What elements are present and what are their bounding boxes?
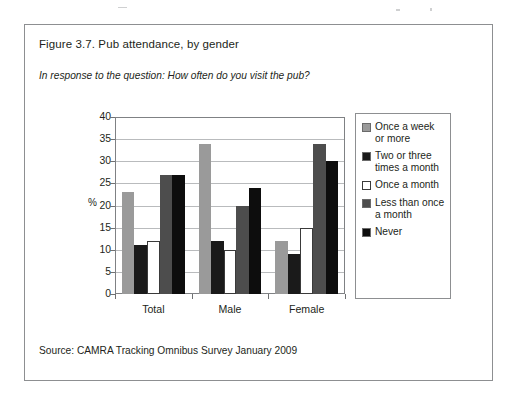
y-axis-tick-label: 15 xyxy=(89,223,111,233)
bar xyxy=(199,144,212,294)
bar xyxy=(288,254,301,294)
x-axis-tick-mark xyxy=(268,294,269,299)
y-axis-tick-mark xyxy=(110,206,115,207)
bar xyxy=(236,206,249,295)
bar xyxy=(147,241,160,294)
y-axis-tick-labels: 0510152025303540 xyxy=(85,117,111,294)
legend-label: Once a month xyxy=(375,179,439,191)
figure-source: Source: CAMRA Tracking Omnibus Survey Ja… xyxy=(39,345,297,356)
bar xyxy=(211,241,224,294)
chart-area: % 0510152025303540 Once a week or moreTw… xyxy=(25,99,494,339)
bar xyxy=(326,161,339,294)
legend-swatch-icon xyxy=(362,152,371,161)
chart-legend: Once a week or moreTwo or three times a … xyxy=(355,113,451,299)
figure-title: Figure 3.7. Pub attendance, by gender xyxy=(39,38,239,50)
legend-label: Less than once a month xyxy=(375,197,445,220)
legend-swatch-icon xyxy=(362,123,371,132)
y-axis-tick-mark xyxy=(110,139,115,140)
bar xyxy=(249,188,262,294)
y-axis-tick-mark xyxy=(110,272,115,273)
legend-swatch-icon xyxy=(362,181,371,190)
y-axis-tick-label: 40 xyxy=(89,112,111,122)
legend-swatch-icon xyxy=(362,228,371,237)
scan-speck xyxy=(396,9,400,11)
y-axis-tick-mark xyxy=(110,117,115,118)
legend-label: Two or three times a month xyxy=(375,150,445,173)
x-axis-tick-mark xyxy=(345,294,346,299)
legend-label: Never xyxy=(375,226,402,238)
legend-swatch-icon xyxy=(362,199,371,208)
y-axis-tick-label: 30 xyxy=(89,156,111,166)
y-axis-tick-label: 25 xyxy=(89,178,111,188)
y-axis-tick-label: 10 xyxy=(89,245,111,255)
y-axis-tick-label: 20 xyxy=(89,201,111,211)
legend-item: Two or three times a month xyxy=(362,150,445,173)
bar xyxy=(300,228,313,294)
x-axis-tick-mark xyxy=(192,294,193,299)
y-axis-tick-label: 35 xyxy=(89,134,111,144)
legend-label: Once a week or more xyxy=(375,121,445,144)
x-axis-category-label: Total xyxy=(142,303,164,315)
legend-item: Once a week or more xyxy=(362,121,445,144)
y-axis-tick-mark xyxy=(110,161,115,162)
x-axis-category-label: Female xyxy=(289,303,324,315)
bar xyxy=(275,241,288,294)
bar xyxy=(160,175,173,294)
bar xyxy=(224,250,237,294)
y-axis-tick-label: 0 xyxy=(89,289,111,299)
y-axis-tick-mark xyxy=(110,183,115,184)
y-axis-tick-mark xyxy=(110,228,115,229)
bar xyxy=(313,144,326,294)
y-axis-tick-mark xyxy=(110,250,115,251)
legend-item: Never xyxy=(362,226,445,238)
legend-item: Once a month xyxy=(362,179,445,191)
bar xyxy=(134,245,147,294)
bar xyxy=(122,192,135,294)
legend-item: Less than once a month xyxy=(362,197,445,220)
x-axis-category-label: Male xyxy=(219,303,242,315)
bars-layer xyxy=(115,117,345,294)
scan-speck xyxy=(430,8,432,11)
x-axis-tick-mark xyxy=(115,294,116,299)
bar xyxy=(172,175,185,294)
figure-subtitle: In response to the question: How often d… xyxy=(39,70,310,81)
scan-speck xyxy=(118,7,127,8)
figure-container: Figure 3.7. Pub attendance, by gender In… xyxy=(24,24,493,381)
y-axis-tick-label: 5 xyxy=(89,267,111,277)
